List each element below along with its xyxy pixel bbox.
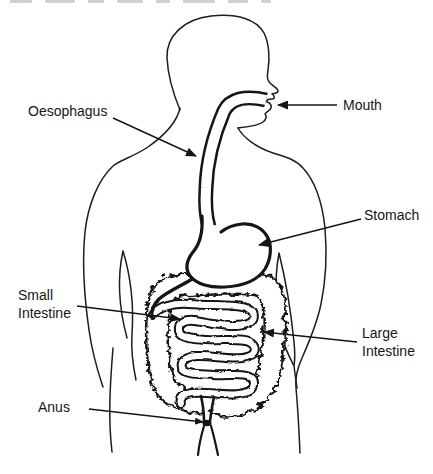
label-mouth: Mouth: [343, 96, 382, 114]
left-hip-leg-outline: [110, 348, 113, 452]
label-anus-text: Anus: [38, 398, 70, 416]
oesophagus-tube: [206, 98, 266, 227]
label-stomach-text: Stomach: [364, 206, 419, 224]
label-stomach: Stomach: [364, 206, 419, 224]
label-small-intestine-line2: Intestine: [18, 304, 71, 322]
digestive-system-diagram: Oesophagus Mouth Stomach Small Intestine…: [0, 0, 433, 474]
anus-point: [203, 420, 212, 426]
label-small-intestine-line1: Small: [18, 286, 71, 304]
label-oesophagus-text: Oesophagus: [28, 102, 107, 120]
label-large-intestine-line1: Large: [362, 324, 415, 342]
label-large-intestine-line2: Intestine: [362, 342, 415, 360]
oesophagus-arrow: [113, 118, 196, 156]
stomach-shape: [187, 216, 270, 287]
label-large-intestine: Large Intestine: [362, 324, 415, 360]
inner-thigh-lines: [198, 426, 218, 455]
label-mouth-text: Mouth: [343, 96, 382, 114]
left-inner-arm-line: [120, 251, 136, 380]
oesophagus-wall: [206, 98, 266, 227]
label-oesophagus: Oesophagus: [28, 102, 107, 120]
label-small-intestine: Small Intestine: [18, 286, 71, 322]
stomach-arrow: [259, 219, 361, 245]
rectum-lines: [201, 396, 214, 421]
label-anus: Anus: [38, 398, 70, 416]
